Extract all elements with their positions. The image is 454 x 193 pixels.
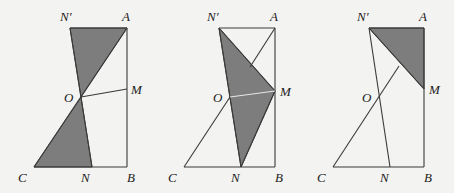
label-m: M: [279, 84, 292, 99]
label-n: N: [80, 170, 91, 185]
label-b: B: [275, 170, 283, 185]
label-c: C: [18, 170, 27, 185]
segment-n-prime-n: [369, 28, 390, 167]
label-a: A: [418, 9, 427, 24]
shaded-triangle-n-prime-m-n: [219, 28, 275, 167]
label-n-prime: N′: [206, 9, 219, 24]
shaded-triangle-o-c-n: [34, 97, 92, 167]
label-o: O: [64, 90, 74, 105]
label-a: A: [121, 9, 130, 24]
label-a: A: [269, 9, 278, 24]
label-o: O: [213, 90, 223, 105]
segment-ca-upper: [250, 28, 275, 67]
segment-c-p: [333, 66, 399, 167]
segment-o-m: [81, 89, 127, 97]
label-c: C: [317, 170, 326, 185]
label-o: O: [362, 90, 372, 105]
label-n-prime: N′: [356, 9, 369, 24]
geometry-diagram: N′ A M O C N B N′ A M O C N B N′: [0, 0, 454, 193]
panel-3: N′ A M O C N B: [317, 9, 441, 185]
label-n: N: [379, 170, 390, 185]
label-n: N: [230, 170, 241, 185]
label-c: C: [168, 170, 177, 185]
label-n-prime: N′: [59, 9, 72, 24]
segment-c-o: [184, 97, 230, 167]
label-m: M: [130, 82, 143, 97]
label-b: B: [424, 170, 432, 185]
panel-1: N′ A M O C N B: [18, 9, 143, 185]
label-m: M: [428, 82, 441, 97]
panel-2: N′ A M O C N B: [168, 9, 292, 185]
label-b: B: [127, 170, 135, 185]
shaded-triangle-n-prime-a-o: [70, 28, 127, 97]
